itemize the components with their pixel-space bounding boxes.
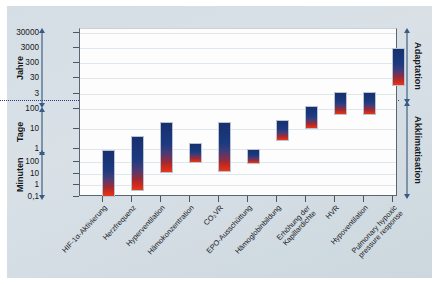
gridline [80,94,396,95]
y-tick-label-minuten-0-1: 0,1 [28,192,39,201]
gridline [80,78,396,79]
y-tick-label-30: 30 [30,73,39,82]
bar-pulmonary-hypoxic-pressure-response [392,48,405,86]
x-tick-mark [102,196,103,202]
gridline [80,63,396,64]
x-tick-label-hif-1a-aktivierung: HIF-1α-Aktivierung [61,204,109,255]
y-group-bracket-jahre [41,32,43,104]
bar-haemokonzentration [189,143,202,163]
chart-figure: Jahre Tage Minuten 30000 3000 300 30 3 1… [0,0,439,284]
x-tick-mark [160,196,161,202]
x-tick-mark [247,196,248,202]
gridline [80,33,396,34]
right-label-adaptation: Adaptation [413,32,423,100]
bar-hvr [334,92,347,115]
gridline [80,149,396,150]
y-group-bracket-tage [41,111,43,153]
y-tick-label-3: 3 [34,89,39,98]
bar-erhoehung-kapillardichte [305,106,318,129]
x-tick-mark [363,196,364,202]
bar-hypoventilation [363,92,376,115]
x-tick-mark [131,196,132,202]
x-tick-mark [189,196,190,202]
chart-panel: Jahre Tage Minuten 30000 3000 300 30 3 1… [6,5,433,279]
gridline [80,48,396,49]
y-tick-label-3000: 3000 [21,43,39,52]
bar-hif-1a-aktivierung [102,150,115,197]
y-tick-label-tage-1: 1 [34,144,39,153]
gridline [80,185,396,186]
gridline [80,162,396,163]
bar-haemoglobinbildung [276,120,289,141]
gridline [80,129,396,130]
y-group-bracket-minuten [41,154,43,196]
y-group-label-minuten: Minuten [15,154,25,196]
x-tick-mark [305,196,306,202]
y-tick-label-tage-10: 10 [30,124,39,133]
y-tick-label-300: 300 [25,58,39,67]
right-bracket-adaptation [406,32,408,100]
x-tick-mark [276,196,277,202]
y-tick-label-minuten-10: 10 [30,169,39,178]
x-tick-label-co2vr: CO₂VR [202,204,225,227]
bar-co2vr [218,122,231,172]
y-tick-label-minuten-100: 100 [25,157,39,166]
right-bracket-akklimatisation [406,105,408,195]
right-label-akklimatisation: Akklimatisation [413,105,423,195]
y-tick-label-minuten-1: 1 [34,180,39,189]
x-tick-mark [334,196,335,202]
x-tick-label-hvr: HVR [324,204,341,221]
y-tick-label-30000: 30000 [16,28,39,37]
gridline [80,174,396,175]
bar-herzfrequenz [131,136,144,191]
gridline [80,109,396,110]
y-tick-label-tage-100: 100 [25,104,39,113]
y-group-label-tage: Tage [15,111,25,153]
bar-hyperventilation [160,122,173,173]
x-tick-mark [392,196,393,202]
y-tick-mark-minuten-0-1 [73,196,79,197]
x-tick-mark [218,196,219,202]
plot-area [79,28,397,196]
bar-epo-ausschuettung [247,149,260,164]
